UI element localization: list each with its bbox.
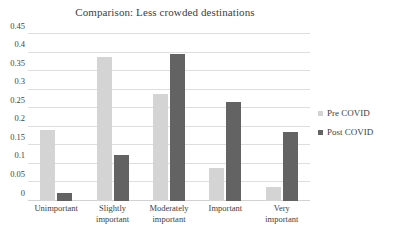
bar-group — [84, 34, 140, 201]
y-axis-tick-label: 0.05 — [0, 170, 25, 179]
x-axis-label-line: Very — [254, 203, 310, 214]
y-axis-tick-label: 0 — [0, 189, 25, 198]
y-axis-tick-label: 0.15 — [0, 133, 25, 142]
x-axis-label: Important — [197, 203, 253, 214]
bar-pre-covid — [40, 130, 55, 201]
x-axis-label: Veryimportant — [254, 203, 310, 225]
bar-pre-covid — [97, 57, 112, 201]
legend-item-post-covid[interactable]: Post COVID — [318, 127, 404, 137]
x-axis-label-line: important — [84, 214, 140, 225]
legend-label: Pre COVID — [327, 108, 370, 118]
x-axis-label-line: Important — [197, 203, 253, 214]
y-axis-tick-label: 0.45 — [0, 22, 25, 31]
x-axis-label-line: Slightly — [84, 203, 140, 214]
chart-title: Comparison: Less crowded destinations — [0, 6, 330, 18]
x-axis-label-line: Moderately — [141, 203, 197, 214]
y-axis-tick-label: 0.3 — [0, 77, 25, 86]
bar-post-covid — [57, 193, 72, 201]
bar-group — [197, 34, 253, 201]
legend-swatch-icon — [318, 130, 323, 135]
bar-post-covid — [114, 155, 129, 201]
y-axis-tick-label: 0.4 — [0, 40, 25, 49]
x-axis-label-line: Unimportant — [28, 203, 84, 214]
bar-group — [28, 34, 84, 201]
x-axis: UnimportantSlightlyimportantModeratelyim… — [28, 203, 310, 249]
y-axis-tick-label: 0.2 — [0, 114, 25, 123]
legend-swatch-icon — [318, 111, 323, 116]
bar-chart: Comparison: Less crowded destinations 00… — [0, 0, 404, 252]
x-axis-label-line: important — [254, 214, 310, 225]
bar-group — [254, 34, 310, 201]
bar-post-covid — [283, 132, 298, 201]
x-axis-label: Moderatelyimportant — [141, 203, 197, 225]
chart-legend: Pre COVIDPost COVID — [318, 108, 404, 146]
x-axis-label: Slightlyimportant — [84, 203, 140, 225]
legend-label: Post COVID — [327, 127, 373, 137]
x-axis-label-line: important — [141, 214, 197, 225]
y-axis-tick-label: 0.35 — [0, 59, 25, 68]
bar-group — [141, 34, 197, 201]
y-axis: 00.050.10.150.20.250.30.350.40.45 — [0, 34, 25, 201]
bar-post-covid — [226, 102, 241, 201]
legend-item-pre-covid[interactable]: Pre COVID — [318, 108, 404, 118]
x-axis-label: Unimportant — [28, 203, 84, 214]
y-axis-tick-label: 0.25 — [0, 96, 25, 105]
y-axis-tick-label: 0.1 — [0, 151, 25, 160]
bar-pre-covid — [153, 94, 168, 201]
bars-layer — [28, 34, 310, 201]
plot-area — [28, 34, 310, 201]
bar-post-covid — [170, 54, 185, 201]
bar-pre-covid — [209, 168, 224, 201]
bar-pre-covid — [266, 187, 281, 201]
